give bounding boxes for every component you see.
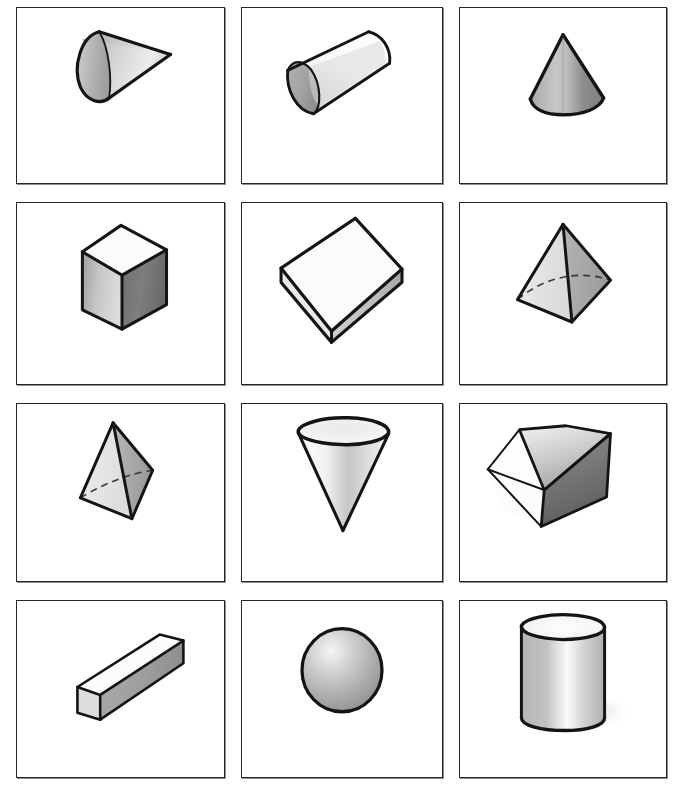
flat-rectangular-box-icon [242,203,442,384]
long-rectangular-bar-icon [17,601,224,777]
cell-sphere[interactable] [241,600,443,778]
cell-inverted-cone[interactable] [241,403,443,582]
upright-cylinder-icon [460,601,666,777]
cube-isometric-icon [17,203,224,384]
sphere-icon [242,601,442,777]
cell-upright-cone[interactable] [459,7,667,184]
upright-cone-icon [460,8,666,183]
cell-upright-cylinder[interactable] [459,600,667,778]
cell-tetrahedron[interactable] [16,403,225,582]
tilted-cylinder-icon [242,8,442,183]
solids-grid [16,7,667,778]
tetrahedron-icon [17,404,224,581]
cell-cone-pointing-right[interactable] [16,7,225,184]
cell-flat-rectangular-box[interactable] [241,202,443,385]
cube-rotated-on-edge-icon [460,404,666,581]
inverted-cone-icon [242,404,442,581]
cell-tilted-cylinder[interactable] [241,7,443,184]
cell-long-rectangular-bar[interactable] [16,600,225,778]
cell-square-pyramid[interactable] [459,202,667,385]
cell-cube-isometric[interactable] [16,202,225,385]
cone-pointing-right-icon [17,8,224,183]
square-pyramid-icon [460,203,666,384]
cell-cube-rotated-on-edge[interactable] [459,403,667,582]
flashcard-sheet [0,0,680,790]
